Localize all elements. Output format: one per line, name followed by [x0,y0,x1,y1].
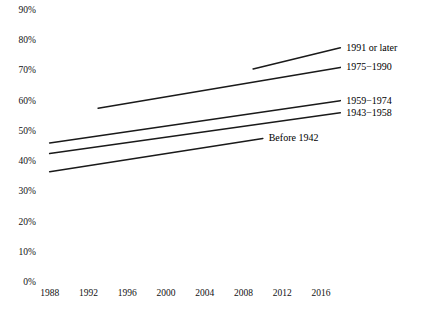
series-label: 1975−1990 [346,61,392,72]
x-axis-tick-label: 1992 [79,288,98,298]
x-axis-tick-label: 2012 [273,288,292,298]
series-label: 1959−1974 [346,95,392,106]
series-label: Before 1942 [269,132,319,143]
x-axis-tick-label: 2008 [234,288,253,298]
series-label: 1943−1958 [346,107,392,118]
x-axis-tick-label: 1996 [118,288,137,298]
x-axis-tick-label: 2016 [311,288,330,298]
x-axis-tick-label: 2000 [156,288,175,298]
series-line [98,67,340,108]
x-axis-tick-label: 1988 [40,288,59,298]
x-axis-tick-label: 2004 [195,288,214,298]
line-chart: 0%10%20%30%40%50%60%70%80%90% 1988199219… [0,0,423,314]
series-label: 1991 or later [346,42,397,53]
series-line [253,48,340,69]
series-line [50,138,263,171]
